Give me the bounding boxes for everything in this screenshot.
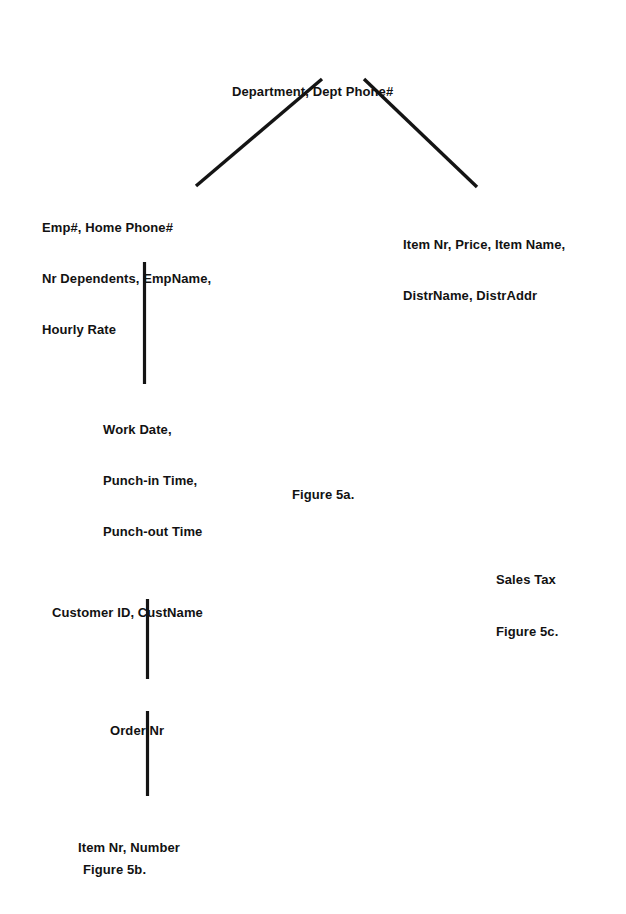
node-order: Order Nr xyxy=(110,688,164,773)
node-timecard-line-2: Punch-in Time, xyxy=(103,472,202,489)
node-customer: Customer ID, CustName xyxy=(52,570,203,655)
node-timecard-line-3: Punch-out Time xyxy=(103,523,202,540)
node-item-distributor-line-2: DistrName, DistrAddr xyxy=(403,287,565,304)
node-employee: Emp#, Home Phone# Nr Dependents, EmpName… xyxy=(42,185,211,372)
node-order-line-1: Order Nr xyxy=(110,722,164,739)
node-department-root-line-1: Department, Dept Phone# xyxy=(232,83,393,100)
node-item-distributor-line-1: Item Nr, Price, Item Name, xyxy=(403,236,565,253)
caption-figure-5b: Figure 5b. xyxy=(83,861,146,878)
node-sales-tax: Sales Tax xyxy=(496,571,556,588)
node-line-item-line-1: Item Nr, Number xyxy=(78,839,180,856)
node-employee-line-3: Hourly Rate xyxy=(42,321,211,338)
tree-connector-lines xyxy=(0,0,626,914)
caption-figure-5a: Figure 5a. xyxy=(292,486,354,503)
node-employee-line-2: Nr Dependents, EmpName, xyxy=(42,270,211,287)
node-item-distributor: Item Nr, Price, Item Name, DistrName, Di… xyxy=(403,202,565,338)
node-timecard: Work Date, Punch-in Time, Punch-out Time xyxy=(103,387,202,574)
figure-page: Department, Dept Phone# Emp#, Home Phone… xyxy=(0,0,626,914)
node-timecard-line-1: Work Date, xyxy=(103,421,202,438)
node-department-root: Department, Dept Phone# xyxy=(232,49,393,134)
node-employee-line-1: Emp#, Home Phone# xyxy=(42,219,211,236)
caption-figure-5c: Figure 5c. xyxy=(496,623,558,640)
node-customer-line-1: Customer ID, CustName xyxy=(52,604,203,621)
